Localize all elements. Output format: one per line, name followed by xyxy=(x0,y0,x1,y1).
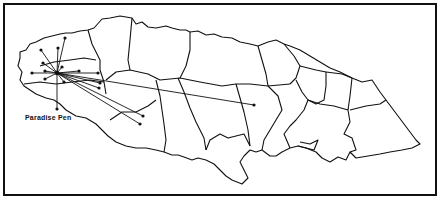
parish-boundary xyxy=(326,72,352,110)
hub-label: Paradise Pen xyxy=(25,114,71,121)
destination-point xyxy=(60,65,63,68)
parish-boundary xyxy=(128,18,132,70)
hub-point xyxy=(55,71,59,75)
island-outline xyxy=(18,16,420,184)
connection-line xyxy=(57,73,143,116)
parish-boundary xyxy=(298,140,318,150)
parish-boundary xyxy=(40,58,96,66)
destination-point xyxy=(41,61,44,64)
destination-point xyxy=(77,69,80,72)
destination-point xyxy=(141,114,144,117)
destination-point xyxy=(43,77,46,80)
destination-points xyxy=(30,36,255,125)
parish-boundary xyxy=(206,134,250,150)
destination-point xyxy=(97,86,100,89)
parish-boundary xyxy=(236,84,250,146)
connection-lines xyxy=(32,38,254,124)
parish-boundary xyxy=(300,66,326,104)
destination-point xyxy=(138,122,141,125)
destination-point xyxy=(62,80,65,83)
parish-boundary xyxy=(258,46,268,86)
parish-boundary xyxy=(284,44,300,84)
destination-point xyxy=(98,81,101,84)
parish-boundary xyxy=(88,30,106,94)
destination-point xyxy=(252,103,255,106)
destination-point xyxy=(39,48,42,51)
parish-boundary xyxy=(350,100,386,110)
jamaica-map xyxy=(0,0,442,202)
destination-point xyxy=(96,71,99,74)
parish-boundary xyxy=(180,32,190,78)
parish-boundary xyxy=(284,80,308,148)
parish-boundary xyxy=(106,70,290,86)
destination-point xyxy=(30,71,33,74)
destination-point xyxy=(55,107,58,110)
parish-boundary xyxy=(178,78,206,150)
destination-point xyxy=(56,46,59,49)
destination-point xyxy=(63,36,66,39)
destination-point xyxy=(43,69,46,72)
parish-boundary xyxy=(262,86,282,150)
